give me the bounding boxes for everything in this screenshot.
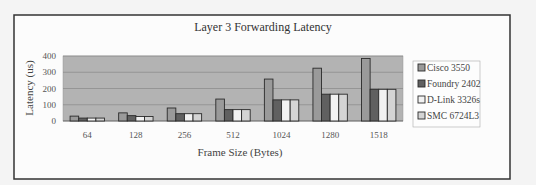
bar-d-link-3326s-64 xyxy=(87,118,96,121)
bar-cisco-3550-512 xyxy=(216,99,225,121)
bar-d-link-3326s-1024 xyxy=(282,100,291,121)
y-axis-label: Latency (us) xyxy=(23,60,36,116)
bar-cisco-3550-64 xyxy=(70,116,79,121)
chart-title: Layer 3 Forwarding Latency xyxy=(194,20,332,34)
bar-d-link-3326s-1518 xyxy=(379,89,388,121)
legend-swatch xyxy=(418,96,425,103)
bar-foundry-2402-64 xyxy=(79,118,88,121)
bar-smc-6724l3-1518 xyxy=(387,89,396,121)
x-tick-label: 512 xyxy=(226,130,240,140)
bar-cisco-3550-128 xyxy=(119,113,128,121)
y-tick-label: 200 xyxy=(43,84,57,94)
bar-foundry-2402-1518 xyxy=(370,89,379,121)
y-tick-label: 400 xyxy=(43,51,57,61)
x-tick-label: 256 xyxy=(178,130,192,140)
bar-cisco-3550-1518 xyxy=(362,58,371,121)
bar-smc-6724l3-1024 xyxy=(290,100,299,121)
latency-chart: Layer 3 Forwarding Latency 0100200300400… xyxy=(0,0,536,185)
legend-label: SMC 6724L3 xyxy=(427,111,479,121)
y-tick-label: 100 xyxy=(43,100,57,110)
bar-foundry-2402-128 xyxy=(127,116,136,121)
bar-smc-6724l3-64 xyxy=(96,118,105,121)
bar-d-link-3326s-256 xyxy=(184,114,193,121)
bar-cisco-3550-256 xyxy=(167,108,176,121)
bar-smc-6724l3-1280 xyxy=(339,94,348,121)
x-axis-label: Frame Size (Bytes) xyxy=(198,146,283,159)
y-tick-label: 0 xyxy=(52,116,57,126)
legend-swatch xyxy=(418,80,425,87)
bar-smc-6724l3-256 xyxy=(193,114,202,121)
legend-swatch xyxy=(418,112,425,119)
bar-cisco-3550-1024 xyxy=(264,79,273,121)
legend-label: D-Link 3326s xyxy=(427,95,480,105)
legend-label: Cisco 3550 xyxy=(427,63,470,73)
x-tick-label: 128 xyxy=(129,130,143,140)
bar-d-link-3326s-512 xyxy=(233,110,242,121)
bar-foundry-2402-1280 xyxy=(322,94,331,121)
plot-area xyxy=(63,56,403,121)
x-tick-label: 1024 xyxy=(273,130,292,140)
bar-foundry-2402-256 xyxy=(176,114,185,121)
bar-smc-6724l3-128 xyxy=(144,116,153,121)
bar-foundry-2402-1024 xyxy=(273,100,282,121)
y-tick-label: 300 xyxy=(43,67,57,77)
legend: Cisco 3550Foundry 2402D-Link 3326sSMC 67… xyxy=(413,61,481,127)
bar-smc-6724l3-512 xyxy=(242,110,251,121)
bar-d-link-3326s-128 xyxy=(136,116,145,121)
x-tick-label: 64 xyxy=(83,130,93,140)
bar-d-link-3326s-1280 xyxy=(330,94,339,121)
bar-cisco-3550-1280 xyxy=(313,68,322,121)
legend-label: Foundry 2402 xyxy=(427,79,481,89)
bar-foundry-2402-512 xyxy=(224,110,233,121)
x-tick-label: 1518 xyxy=(370,130,389,140)
x-tick-label: 1280 xyxy=(321,130,340,140)
legend-swatch xyxy=(418,64,425,71)
